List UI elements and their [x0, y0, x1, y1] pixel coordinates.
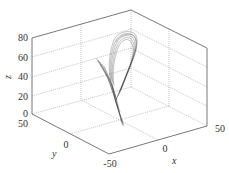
gridlines: [32, 10, 207, 140]
x-tick-50: 50: [215, 123, 225, 134]
axes-box: [32, 10, 207, 154]
x-axis-label: x: [171, 155, 177, 166]
y-axis-label: y: [51, 148, 57, 159]
x-tick-0: 0: [163, 143, 168, 154]
y-axis-ticks: 50 0 -50: [18, 118, 117, 169]
3d-plot: 80 60 40 20 0 z 50 0 -50 y 0 50 x: [0, 0, 229, 173]
y-tick-50: 50: [18, 118, 28, 129]
z-tick-80: 80: [18, 32, 28, 43]
z-axis-label: z: [2, 75, 13, 80]
z-tick-20: 20: [18, 91, 28, 102]
z-tick-60: 60: [18, 52, 28, 63]
z-tick-40: 40: [18, 71, 28, 82]
x-axis-ticks: 0 50: [163, 123, 226, 154]
z-axis-ticks: 80 60 40 20 0: [18, 32, 28, 119]
y-tick-neg50: -50: [103, 158, 116, 169]
y-tick-0: 0: [64, 139, 69, 150]
